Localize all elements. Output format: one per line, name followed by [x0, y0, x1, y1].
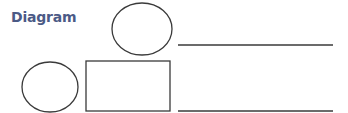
left-ellipse — [22, 62, 78, 112]
rectangle — [86, 61, 170, 111]
diagram-canvas — [0, 0, 348, 113]
top-ellipse — [112, 3, 172, 55]
